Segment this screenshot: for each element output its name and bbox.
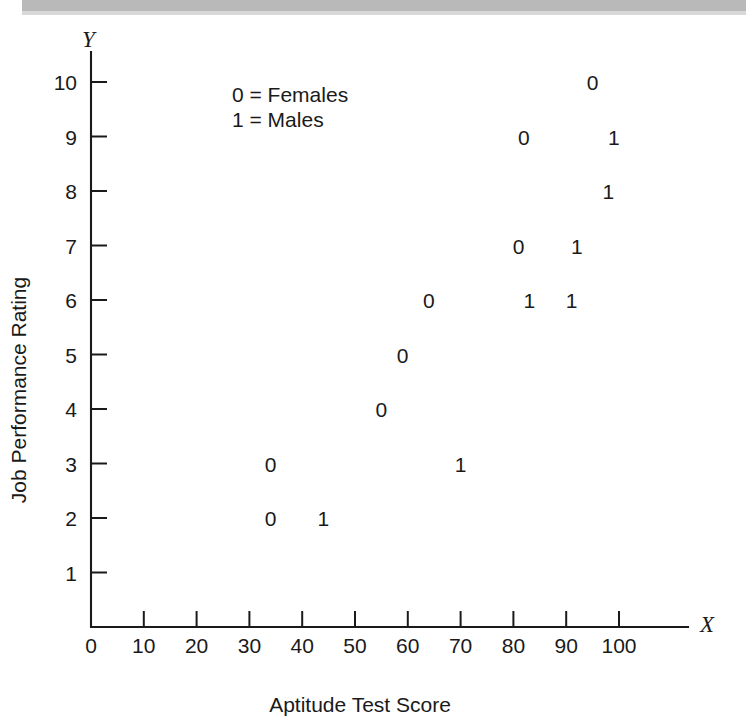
data-point: 0 (397, 344, 409, 367)
legend-entry-females: 0 = Females (232, 83, 348, 106)
x-axis-tick-label: 90 (555, 634, 578, 657)
legend-entry-males: 1 = Males (232, 108, 324, 131)
x-axis-tick-label: 40 (291, 634, 314, 657)
x-axis-tick-label: 70 (449, 634, 472, 657)
data-point: 0 (376, 398, 388, 421)
data-point: 0 (587, 71, 599, 94)
axis-lines (91, 52, 688, 627)
x-axis-title: Aptitude Test Score (269, 693, 451, 716)
data-point: 1 (608, 126, 620, 149)
axes (91, 52, 688, 627)
data-point: 1 (317, 507, 329, 530)
data-point: 0 (265, 453, 277, 476)
data-point: 0 (513, 235, 525, 258)
axis-ticks (91, 82, 619, 627)
y-axis-letter: Y (82, 27, 97, 52)
x-axis-tick-label: 80 (502, 634, 525, 657)
y-axis-tick-label: 6 (65, 289, 77, 312)
y-axis-tick-label: 2 (65, 507, 77, 530)
scatterplot-figure: 0102030405060708090100 12345678910 00000… (0, 0, 746, 721)
y-axis-tick-label: 10 (54, 71, 77, 94)
x-axis-tick-label: 0 (85, 634, 97, 657)
data-point: 0 (265, 507, 277, 530)
x-axis-letter: X (699, 612, 715, 637)
y-axis-tick-label: 3 (65, 453, 77, 476)
x-axis-tick-label: 30 (238, 634, 261, 657)
y-axis-tick-label: 5 (65, 344, 77, 367)
data-point: 0 (518, 126, 530, 149)
data-points: 000000001111111 (265, 71, 620, 530)
figure-page: 0102030405060708090100 12345678910 00000… (0, 0, 746, 721)
data-point: 1 (455, 453, 467, 476)
y-axis-tick-label: 9 (65, 126, 77, 149)
data-point: 1 (523, 289, 535, 312)
x-axis-tick-label: 50 (343, 634, 366, 657)
x-axis-tick-labels: 0102030405060708090100 (85, 634, 636, 657)
y-axis-tick-labels: 12345678910 (54, 71, 78, 585)
y-axis-tick-label: 4 (65, 398, 77, 421)
y-axis-tick-label: 7 (65, 235, 77, 258)
y-axis-title: Job Performance Rating (7, 277, 30, 503)
y-axis-tick-label: 8 (65, 180, 77, 203)
data-point: 1 (566, 289, 578, 312)
x-axis-tick-label: 10 (132, 634, 155, 657)
x-axis-tick-label: 100 (601, 634, 636, 657)
x-axis-tick-label: 60 (396, 634, 419, 657)
data-point: 1 (603, 180, 615, 203)
x-axis-tick-label: 20 (185, 634, 208, 657)
data-point: 1 (571, 235, 583, 258)
y-axis-tick-label: 1 (65, 562, 77, 585)
data-point: 0 (423, 289, 435, 312)
